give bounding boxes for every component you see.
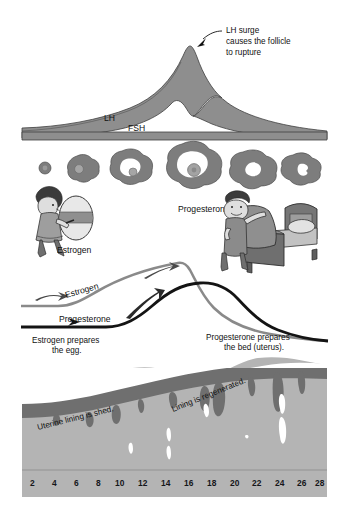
bed-pillow bbox=[288, 220, 315, 234]
estrogen-character-label: Estrogen bbox=[57, 245, 92, 255]
estrogen-character-group: Estrogen bbox=[36, 186, 93, 257]
uterine-lining-panel: Uterine lining is shed. Lining is regene… bbox=[22, 357, 327, 497]
callout-arrowhead-icon bbox=[197, 38, 206, 47]
axis-tick-26: 26 bbox=[297, 478, 307, 488]
progesterone-character-group: Progesterone bbox=[178, 191, 317, 273]
menstrual-cycle-diagram: LH FSH LH surge causes the follicle to r… bbox=[0, 0, 349, 514]
follicle-stage-6 bbox=[281, 153, 321, 185]
axis-tick-10: 10 bbox=[115, 478, 125, 488]
progesterone-caption-line-2: the bed (uterus). bbox=[224, 343, 284, 352]
boy-head bbox=[224, 200, 248, 220]
lh-surge-line-3: to rupture bbox=[226, 48, 261, 57]
lh-surge-line-1: LH surge bbox=[226, 26, 260, 35]
callout-leader-line bbox=[203, 31, 222, 39]
estrogen-caption-line-1: Estrogen prepares bbox=[32, 336, 99, 345]
axis-tick-2: 2 bbox=[30, 478, 35, 488]
axis-tick-18: 18 bbox=[207, 478, 217, 488]
progesterone-caption-line-1: Progesterone prepares bbox=[206, 333, 290, 342]
axis-tick-20: 20 bbox=[230, 478, 240, 488]
axis-tick-14: 14 bbox=[161, 478, 171, 488]
fsh-band-label: FSH bbox=[128, 123, 145, 133]
bed-leg-right bbox=[312, 249, 317, 260]
lh-band-label: LH bbox=[104, 113, 115, 123]
hormone-baseline-strip bbox=[22, 132, 327, 140]
hormone-curve-group: Estrogen Progesterone bbox=[21, 262, 328, 341]
estrogen-curve bbox=[21, 263, 328, 341]
axis-tick-28: 28 bbox=[315, 478, 325, 488]
lh-fsh-band-shape bbox=[22, 46, 222, 138]
lh-surge-line-2: causes the follicle bbox=[226, 37, 291, 46]
follicle-stage-row bbox=[39, 141, 321, 189]
girl-dress bbox=[36, 213, 62, 243]
progesterone-curve-label: Progesterone bbox=[59, 314, 111, 324]
estrogen-curve-label: Estrogen bbox=[64, 281, 100, 300]
lh-surge-callout: LH surge causes the follicle to rupture bbox=[197, 26, 291, 57]
axis-tick-6: 6 bbox=[74, 478, 79, 488]
follicle-stage-2 bbox=[67, 155, 99, 183]
figure-canvas: LH FSH LH surge causes the follicle to r… bbox=[0, 0, 349, 514]
bed-leg-left bbox=[247, 262, 252, 273]
axis-tick-22: 22 bbox=[252, 478, 262, 488]
axis-tick-8: 8 bbox=[96, 478, 101, 488]
estrogen-caption-line-2: the egg. bbox=[52, 346, 82, 355]
follicle-stage-5 bbox=[229, 150, 277, 189]
hormone-band-group: LH FSH bbox=[22, 46, 327, 140]
axis-tick-12: 12 bbox=[138, 478, 148, 488]
follicle-stage-4 bbox=[166, 141, 221, 188]
caption-group: Estrogen prepares the egg. Progesterone … bbox=[32, 333, 290, 355]
follicle-stage-1 bbox=[39, 162, 51, 174]
axis-tick-4: 4 bbox=[52, 478, 57, 488]
axis-tick-16: 16 bbox=[184, 478, 194, 488]
progesterone-character-label: Progesterone bbox=[178, 204, 230, 214]
follicle-stage-3 bbox=[110, 149, 153, 185]
progesterone-arrow-2 bbox=[126, 288, 165, 319]
axis-tick-24: 24 bbox=[275, 478, 285, 488]
